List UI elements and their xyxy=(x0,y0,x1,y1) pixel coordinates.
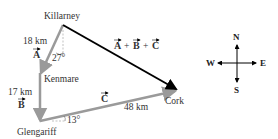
vector-diagram: Killarney Kenmare Glengariff Cork 18 km … xyxy=(0,0,278,139)
vector-a-arrow xyxy=(41,25,63,73)
compass-south-label: S xyxy=(234,85,239,95)
vector-c-symbol: C xyxy=(101,93,108,104)
resultant-label: A + B + C xyxy=(114,40,159,51)
distance-b: 17 km xyxy=(8,87,33,97)
place-kenmare: Kenmare xyxy=(44,74,79,84)
vector-a-symbol: A xyxy=(33,49,41,60)
distance-a: 18 km xyxy=(23,36,48,46)
distance-c: 48 km xyxy=(124,102,149,112)
resultant-part-a: A xyxy=(114,40,122,51)
vector-b-symbol: B xyxy=(18,99,25,110)
angle-a: 27° xyxy=(52,53,66,63)
resultant-part-b: B xyxy=(133,40,140,51)
place-glengariff: Glengariff xyxy=(17,127,57,137)
place-cork: Cork xyxy=(165,96,184,106)
compass-rose: N S E W xyxy=(206,32,266,95)
compass-east-label: E xyxy=(260,58,266,68)
resultant-plus-2: + xyxy=(143,41,148,51)
resultant-plus-1: + xyxy=(124,41,129,51)
compass-north-label: N xyxy=(233,32,240,42)
angle-c: 13° xyxy=(67,115,81,125)
compass-west-label: W xyxy=(206,58,215,68)
place-killarney: Killarney xyxy=(44,11,80,21)
resultant-arrow xyxy=(63,25,176,89)
resultant-part-c: C xyxy=(152,40,159,51)
